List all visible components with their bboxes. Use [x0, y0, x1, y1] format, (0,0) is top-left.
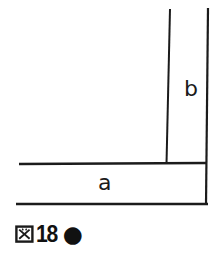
- strip-b-label: b: [184, 78, 198, 100]
- strip-a-top-line: [19, 163, 207, 164]
- strip-b-left-line: [167, 9, 171, 164]
- strip-b-right-line: [206, 8, 208, 205]
- kanji-zu-character-icon: [15, 224, 34, 244]
- caption-figure-number: 18: [36, 222, 57, 246]
- caption-bullet-mark: ●: [63, 223, 83, 246]
- scanned-figure-page: b a 18 ●: [0, 0, 222, 259]
- strip-a-label: a: [98, 172, 111, 194]
- figure-caption: 18 ●: [15, 223, 83, 245]
